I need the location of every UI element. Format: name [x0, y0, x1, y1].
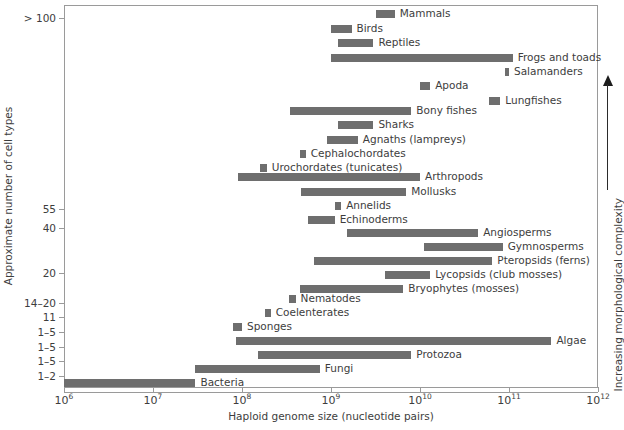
bar-row-protozoa: Protozoa	[258, 351, 412, 359]
bar-algae	[236, 337, 552, 345]
x-axis-tick-mark	[331, 387, 332, 392]
bar-label-bony-fishes: Bony fishes	[416, 103, 477, 118]
bar-fungi	[195, 365, 319, 373]
bar-mammals	[376, 10, 395, 18]
bar-label-sharks: Sharks	[378, 117, 414, 132]
bar-row-sharks: Sharks	[338, 121, 373, 129]
complexity-annotation: Increasing morphological complexity	[600, 70, 620, 370]
x-axis-tick-mark	[598, 387, 599, 392]
bar-row-birds: Birds	[331, 25, 352, 33]
complexity-annotation-label: Increasing morphological complexity	[612, 198, 624, 391]
bar-cephalochordates	[300, 150, 306, 158]
bar-arthropods	[238, 173, 420, 181]
bar-label-bryophytes: Bryophytes (mosses)	[408, 281, 519, 296]
bar-label-reptiles: Reptiles	[378, 35, 420, 50]
x-axis-title: Haploid genome size (nucleotide pairs)	[64, 410, 598, 422]
bars-layer: MammalsBirdsReptilesFrogs and toadsSalam…	[64, 5, 598, 388]
bar-bacteria	[64, 379, 195, 387]
bar-lungfishes	[489, 97, 500, 105]
bar-label-bacteria: Bacteria	[200, 375, 244, 390]
bar-label-protozoa: Protozoa	[416, 347, 462, 362]
x-axis-tick-label: 1011	[497, 394, 521, 407]
x-axis-tick-mark	[153, 387, 154, 392]
bar-annelids	[335, 202, 341, 210]
bar-row-echinoderms: Echinoderms	[308, 216, 335, 224]
bar-row-mammals: Mammals	[376, 10, 395, 18]
x-axis-tick-mark	[420, 387, 421, 392]
bar-echinoderms	[308, 216, 335, 224]
bar-row-frogs-and-toads: Frogs and toads	[331, 54, 513, 62]
bar-gymnosperms	[424, 243, 503, 251]
bar-pteropsids	[314, 257, 492, 265]
bar-row-salamanders: Salamanders	[505, 68, 509, 76]
bar-label-pteropsids: Pteropsids (ferns)	[497, 253, 590, 268]
y-axis-tick-label: 11	[43, 310, 56, 324]
arrow-shaft	[607, 84, 608, 190]
bar-urochordates	[260, 164, 267, 172]
bar-label-arthropods: Arthropods	[425, 169, 483, 184]
bar-row-agnaths: Agnaths (lampreys)	[327, 136, 358, 144]
bar-angiosperms	[347, 229, 478, 237]
bar-row-nematodes: Nematodes	[289, 295, 295, 303]
bar-label-echinoderms: Echinoderms	[340, 212, 408, 227]
bar-row-lycopsids: Lycopsids (club mosses)	[385, 271, 431, 279]
bar-row-arthropods: Arthropods	[238, 173, 420, 181]
bar-row-fungi: Fungi	[195, 365, 319, 373]
bar-label-lungfishes: Lungfishes	[505, 93, 561, 108]
bar-row-pteropsids: Pteropsids (ferns)	[314, 257, 492, 265]
bar-agnaths	[327, 136, 358, 144]
y-axis-tick-label: 20	[43, 266, 56, 280]
bar-reptiles	[338, 39, 373, 47]
y-axis-tick-label: 55	[43, 202, 56, 216]
y-axis-tick-label: 1–2	[37, 369, 56, 383]
x-axis-tick-label: 108	[233, 394, 252, 407]
bar-row-annelids: Annelids	[335, 202, 341, 210]
bar-label-birds: Birds	[357, 21, 383, 36]
y-axis-tick-label: 40	[43, 221, 56, 235]
y-axis-tick-label: 1–5	[37, 354, 56, 368]
x-axis-tick-label: 106	[55, 394, 74, 407]
bar-row-lungfishes: Lungfishes	[489, 97, 500, 105]
x-axis-tick-label: 107	[144, 394, 163, 407]
bar-mollusks	[301, 188, 406, 196]
bar-label-nematodes: Nematodes	[301, 291, 361, 306]
y-axis-title: Approximate number of cell types	[2, 107, 14, 286]
bar-label-gymnosperms: Gymnosperms	[508, 239, 584, 254]
bar-label-lycopsids: Lycopsids (club mosses)	[435, 267, 562, 282]
bar-row-apoda: Apoda	[420, 82, 430, 90]
bar-row-gymnosperms: Gymnosperms	[424, 243, 503, 251]
bar-label-sponges: Sponges	[247, 319, 292, 334]
bar-sponges	[233, 323, 242, 331]
bar-apoda	[420, 82, 430, 90]
bar-label-mollusks: Mollusks	[411, 184, 456, 199]
bar-label-annelids: Annelids	[346, 198, 391, 213]
bar-label-angiosperms: Angiosperms	[483, 225, 551, 240]
bar-row-urochordates: Urochordates (tunicates)	[260, 164, 267, 172]
bar-label-frogs-and-toads: Frogs and toads	[518, 50, 601, 65]
bar-label-mammals: Mammals	[400, 6, 451, 21]
bar-row-coelenterates: Coelenterates	[265, 309, 271, 317]
bar-label-salamanders: Salamanders	[514, 64, 583, 79]
bar-nematodes	[289, 295, 295, 303]
y-axis-tick-label: > 100	[24, 11, 56, 25]
x-axis-tick-mark	[242, 387, 243, 392]
bar-lycopsids	[385, 271, 431, 279]
bar-birds	[331, 25, 352, 33]
bar-protozoa	[258, 351, 412, 359]
bar-label-fungi: Fungi	[325, 361, 353, 376]
bar-row-bacteria: Bacteria	[64, 379, 195, 387]
x-axis-tick-label: 109	[322, 394, 341, 407]
bar-label-coelenterates: Coelenterates	[276, 305, 350, 320]
bar-row-algae: Algae	[236, 337, 552, 345]
bar-label-cephalochordates: Cephalochordates	[311, 146, 406, 161]
bar-frogs-and-toads	[331, 54, 513, 62]
x-axis-tick-label: 1010	[408, 394, 432, 407]
y-axis-tick-label: 14–20	[24, 296, 56, 310]
bar-label-apoda: Apoda	[435, 78, 468, 93]
bar-row-cephalochordates: Cephalochordates	[300, 150, 306, 158]
bar-row-reptiles: Reptiles	[338, 39, 373, 47]
x-axis-tick-mark	[64, 387, 65, 392]
bar-row-angiosperms: Angiosperms	[347, 229, 478, 237]
bar-coelenterates	[265, 309, 271, 317]
